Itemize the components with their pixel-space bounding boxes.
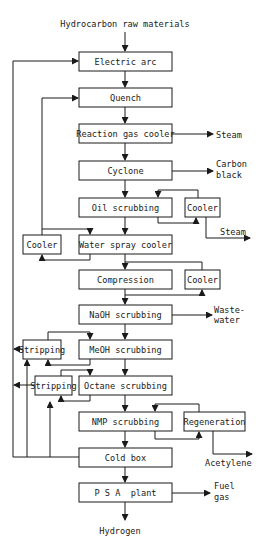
input-label: Hydrocarbon raw materials — [60, 19, 189, 29]
output-fuel-gas-2: gas — [214, 492, 230, 502]
svg-text:P S A plant: P S A plant — [94, 488, 156, 498]
stripping-octane-loop-bottom — [61, 395, 90, 401]
regeneration-loop-top — [155, 404, 199, 412]
side-stripping-meoh: Stripping — [19, 340, 66, 359]
recycle-to-electric-arc — [13, 61, 79, 457]
svg-text:Regeneration: Regeneration — [183, 417, 245, 427]
svg-text:Stripping: Stripping — [19, 345, 66, 355]
arrow-acetylene — [213, 431, 252, 454]
svg-text:Water spray cooler: Water spray cooler — [79, 240, 172, 250]
output-wastewater-1: Waste- — [214, 305, 245, 315]
step-nmp-scrubbing: NMP scrubbing — [79, 412, 172, 431]
step-cold-box: Cold box — [79, 448, 172, 467]
output-carbon-black-2: black — [216, 170, 243, 180]
svg-text:Electric arc: Electric arc — [94, 57, 156, 67]
step-meoh-scrubbing: MeOH scrubbing — [79, 340, 172, 359]
step-psa-plant: P S A plant — [79, 483, 172, 502]
step-electric-arc: Electric arc — [79, 52, 172, 71]
step-octane-scrubbing: Octane scrubbing — [79, 376, 172, 395]
side-cooler-oil: Cooler — [185, 198, 220, 217]
step-cyclone: Cyclone — [79, 161, 172, 180]
output-carbon-black-1: Carbon — [216, 159, 247, 169]
svg-text:Oil scrubbing: Oil scrubbing — [92, 203, 159, 213]
side-regeneration: Regeneration — [183, 412, 245, 431]
regeneration-loop-bottom — [155, 431, 199, 439]
cooler-compression-loop-top — [125, 262, 202, 270]
step-oil-scrubbing: Oil scrubbing — [79, 198, 172, 217]
side-cooler-compression: Cooler — [185, 270, 220, 289]
svg-text:Compression: Compression — [97, 275, 154, 285]
step-water-spray-cooler: Water spray cooler — [79, 235, 172, 254]
cooler-oil-loop-top — [158, 190, 198, 198]
output-steam-2: Steam — [220, 227, 246, 237]
svg-text:Cooler: Cooler — [187, 203, 218, 213]
step-compression: Compression — [79, 270, 172, 289]
side-cooler-water: Cooler — [23, 235, 61, 254]
svg-text:Cooler: Cooler — [187, 275, 218, 285]
svg-text:Cold box: Cold box — [105, 453, 146, 463]
process-flow-diagram: Hydrocarbon raw materials Electric arc Q… — [0, 0, 268, 540]
output-wastewater-2: water — [214, 315, 240, 325]
stripping-octane-loop-top — [61, 370, 90, 376]
svg-text:Quench: Quench — [110, 93, 141, 103]
svg-text:Octane scrubbing: Octane scrubbing — [84, 381, 167, 391]
output-acetylene: Acetylene — [205, 458, 252, 468]
cooler-oil-loop-bottom — [158, 217, 196, 223]
output-steam-1: Steam — [216, 130, 242, 140]
cooler-water-loop-bottom — [42, 254, 90, 260]
svg-text:Reaction gas cooler: Reaction gas cooler — [76, 129, 174, 139]
step-naoh-scrubbing: NaOH scrubbing — [79, 305, 172, 324]
output-hydrogen-label: Hydrogen — [99, 526, 140, 536]
svg-text:Cooler: Cooler — [26, 240, 57, 250]
cooler-compression-loop-bottom — [125, 290, 202, 295]
svg-text:Stripping: Stripping — [30, 381, 77, 391]
step-quench: Quench — [79, 88, 172, 107]
stripping-meoh-loop-top — [48, 332, 90, 340]
recycle-to-quench — [42, 98, 78, 235]
stripping-meoh-loop-bottom — [48, 359, 90, 365]
svg-text:MeOH scrubbing: MeOH scrubbing — [89, 345, 161, 355]
svg-text:NaOH scrubbing: NaOH scrubbing — [89, 310, 161, 320]
step-reaction-gas-cooler: Reaction gas cooler — [76, 124, 174, 143]
svg-text:Cyclone: Cyclone — [107, 166, 143, 176]
side-stripping-octane: Stripping — [30, 376, 77, 395]
cooler-water-loop-top — [42, 229, 90, 234]
svg-text:NMP scrubbing: NMP scrubbing — [92, 417, 159, 427]
output-fuel-gas-1: Fuel — [214, 481, 235, 491]
